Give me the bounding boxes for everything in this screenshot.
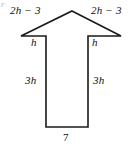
arrow-shape-drawing [0,0,129,152]
geometry-figure: r 2h − 3 2h − 3 h h 3h 3h 7 [0,0,129,152]
label-shaft-left: 3h [25,75,36,86]
label-arrowhead-left: 2h − 3 [10,5,41,16]
label-shaft-right: 3h [93,75,104,86]
label-barb-right: h [92,37,98,48]
label-barb-left: h [31,37,37,48]
arrow-polygon [21,11,121,127]
label-arrowhead-right: 2h − 3 [91,5,122,16]
label-base: 7 [63,132,69,143]
